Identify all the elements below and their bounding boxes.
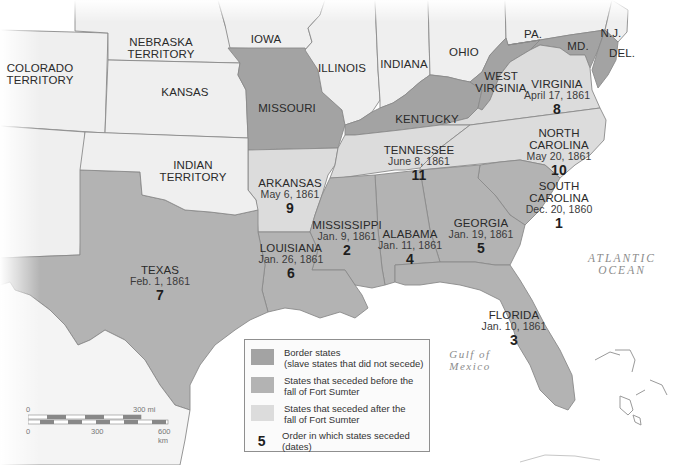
legend-swatch-seceded-after <box>251 405 274 421</box>
label-virginia: VIRGINIAApril 17, 18618 <box>524 78 590 117</box>
label-florida: FLORIDAJan. 10, 18613 <box>482 309 547 348</box>
legend-swatch-seceded-before <box>251 377 274 393</box>
label-ohio: OHIO <box>449 46 479 58</box>
secession-map: COLORADOTERRITORY NEBRASKATERRITORY KANS… <box>0 0 687 465</box>
label-arkansas: ARKANSASMay 6, 18619 <box>258 177 321 216</box>
kansas-shape <box>105 60 248 138</box>
label-north-carolina: NORTHCAROLINAMay 20, 186110 <box>527 127 592 178</box>
label-nj: N.J. <box>601 27 622 39</box>
legend-item-seceded-before: States that seceded before thefall of Fo… <box>251 375 413 398</box>
label-indiana: INDIANA <box>380 58 427 70</box>
label-texas: TEXASFeb. 1, 18617 <box>130 264 190 303</box>
scale-bar-graphic <box>28 414 178 428</box>
label-maryland: MD. <box>567 40 588 52</box>
label-west-virginia: WESTVIRGINIA <box>475 70 526 94</box>
legend-order-number: 5 <box>251 433 272 449</box>
label-iowa: IOWA <box>251 33 282 45</box>
label-south-carolina: SOUTHCAROLINADec. 20, 18601 <box>526 180 593 231</box>
label-kansas: KANSAS <box>161 86 208 98</box>
legend-item-border-states: Border states(slave states that did not … <box>251 347 423 370</box>
label-atlantic-ocean: ATLANTICOCEAN <box>588 252 656 276</box>
scale-bar: 0 300 mi 0 300 600 km <box>28 406 178 436</box>
legend-swatch-border-states <box>251 349 274 365</box>
label-illinois: ILLINOIS <box>318 62 366 74</box>
label-colorado-territory: COLORADOTERRITORY <box>7 62 74 86</box>
label-nebraska-territory: NEBRASKATERRITORY <box>128 36 195 60</box>
map-legend: Border states(slave states that did not … <box>244 339 430 452</box>
label-pa: PA. <box>524 28 542 40</box>
new-mexico-territory-shape <box>0 126 85 258</box>
label-gulf-of-mexico: Gulf ofMexico <box>449 349 490 372</box>
label-delaware: DEL. <box>609 47 635 59</box>
legend-item-order: 5 Order in which states seceded (dates) <box>251 430 429 453</box>
label-louisiana: LOUISIANAJan. 26, 18616 <box>259 242 324 281</box>
label-kentucky: KENTUCKY <box>395 113 458 125</box>
label-missouri: MISSOURI <box>258 102 316 114</box>
label-indian-territory: INDIANTERRITORY <box>160 159 227 183</box>
label-tennessee: TENNESSEEJune 8, 186111 <box>384 144 455 183</box>
label-georgia: GEORGIAJan. 19, 18615 <box>449 217 514 256</box>
legend-item-seceded-after: States that seceded after thefall of For… <box>251 403 405 426</box>
label-alabama: ALABAMAJan. 11, 18614 <box>378 228 442 267</box>
